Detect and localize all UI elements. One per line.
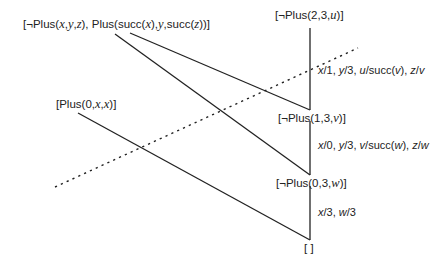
edge-rule-to-resolvent1: [130, 33, 310, 110]
node-resolvent-1: [¬Plus(1,3,v)]: [278, 112, 346, 125]
edge-rule-to-resolvent2: [115, 34, 310, 175]
node-clause-rule: [¬Plus(x,y,z), Plus(succ(x),y,succ(z))]: [23, 18, 210, 31]
node-empty-clause: [ ]: [304, 243, 314, 255]
node-fact: [Plus(0,x,x)]: [56, 98, 116, 111]
node-goal: [¬Plus(2,3,u)]: [275, 9, 344, 22]
node-resolvent-2: [¬Plus(0,3,w)]: [276, 177, 347, 190]
substitution-step-3: x/3, w/3: [318, 207, 356, 218]
substitution-step-2: x/0, y/3, v/succ(w), z/w: [318, 140, 429, 151]
substitution-step-1: x/1, y/3, u/succ(v), z/v: [318, 65, 424, 76]
edges-layer: [0, 0, 448, 271]
